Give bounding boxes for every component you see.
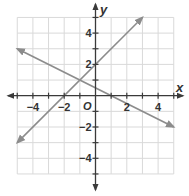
origin-label: O	[83, 100, 92, 112]
y-tick-label: −2	[79, 121, 92, 133]
coordinate-plane: x y O −4−22442−2−4	[0, 0, 189, 196]
y-tick-label: −4	[79, 152, 92, 164]
x-axis-label: x	[175, 80, 184, 95]
y-tick-label: 4	[85, 27, 92, 39]
x-tick-label: −4	[27, 101, 40, 113]
x-tick-label: 4	[155, 101, 162, 113]
y-axis-label: y	[99, 2, 108, 17]
x-tick-label: 2	[124, 101, 130, 113]
x-tick-label: −2	[58, 101, 71, 113]
labels: x y O −4−22442−2−4	[27, 2, 184, 164]
axes	[8, 4, 183, 190]
y-tick-label: 2	[85, 58, 91, 70]
